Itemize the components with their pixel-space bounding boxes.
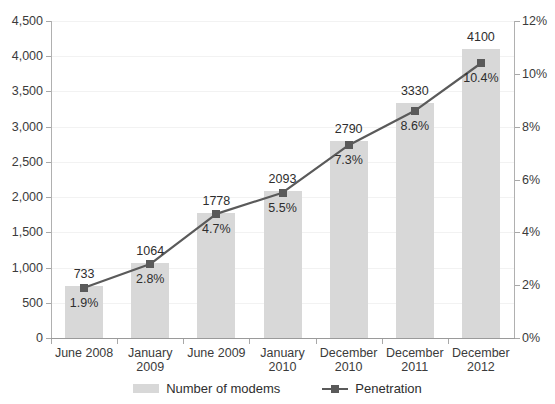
y-axis-left-tick-label: 2,500 [12,156,43,169]
bar [462,49,500,338]
chart-legend: Number of modems Penetration [0,381,555,396]
penetration-value-label: 2.8% [110,273,190,286]
y-axis-right-tick [515,180,520,181]
y-axis-right-tick-label: 4% [522,226,540,239]
x-axis-line [51,338,515,339]
x-axis-category-label: January2009 [117,346,183,374]
bar [330,141,368,338]
y-axis-left-tick [46,162,51,163]
x-axis-tick [117,339,118,344]
x-axis-tick [51,339,52,344]
y-axis-right-tick [515,127,520,128]
y-axis-left-tick [46,127,51,128]
y-axis-left-tick-label: 3,000 [12,121,43,134]
y-axis-left-tick [46,197,51,198]
line-marker [345,141,353,149]
gridline [51,21,514,22]
x-axis-tick [448,339,449,344]
bar-value-label: 3330 [375,85,455,98]
y-axis-right-tick-label: 6% [522,174,540,187]
y-axis-left-tick-label: 4,000 [12,50,43,63]
bar-value-label: 4100 [441,31,521,44]
gridline [51,162,514,163]
y-axis-right-tick [515,285,520,286]
legend-label-penetration: Penetration [355,381,422,396]
gridline [51,56,514,57]
legend-item-number-of-modems: Number of modems [133,381,280,396]
bar [396,103,434,338]
y-axis-right-tick [515,21,520,22]
legend-label-number-of-modems: Number of modems [166,381,280,396]
line-marker [477,59,485,67]
x-axis-tick [183,339,184,344]
x-axis-tick [382,339,383,344]
x-axis-tick [316,339,317,344]
y-axis-left-tick-label: 2,000 [12,191,43,204]
y-axis-left-tick [46,91,51,92]
y-axis-left-tick-label: 1,500 [12,226,43,239]
bar-value-label: 1064 [110,245,190,258]
x-axis-category-label: June 2008 [51,346,117,360]
y-axis-right-tick-label: 2% [522,279,540,292]
y-axis-right-tick-label: 10% [522,68,547,81]
line-marker [80,284,88,292]
penetration-value-label: 10.4% [441,72,521,85]
x-axis-category-label: June 2009 [183,346,249,360]
chart-container: 05001,0001,5002,0002,5003,0003,5004,0004… [0,0,555,404]
bar-value-label: 2093 [243,173,323,186]
x-axis-category-label: December2010 [316,346,382,374]
legend-item-penetration: Penetration [322,381,422,396]
y-axis-right-tick-label: 12% [522,15,547,28]
line-square-marker-icon [322,384,348,393]
y-axis-left-tick [46,232,51,233]
y-axis-right-tick [515,338,520,339]
x-axis-category-label: December2011 [382,346,448,374]
y-axis-right-tick-label: 8% [522,121,540,134]
y-axis-left-tick [46,56,51,57]
bar [65,286,103,338]
y-axis-right-tick-label: 0% [522,332,540,345]
penetration-value-label: 7.3% [309,154,389,167]
penetration-value-label: 5.5% [243,202,323,215]
x-axis-category-label: January2010 [249,346,315,374]
y-axis-left-tick-label: 3,500 [12,85,43,98]
y-axis-right-tick [515,232,520,233]
y-axis-left-tick-label: 500 [22,297,43,310]
line-marker [279,189,287,197]
bar-swatch-icon [133,384,159,393]
y-axis-left-tick-label: 4,500 [12,15,43,28]
x-axis-tick [249,339,250,344]
line-marker [411,107,419,115]
y-axis-left-tick-label: 0 [36,332,43,345]
line-marker [212,210,220,218]
penetration-value-label: 1.9% [44,297,124,310]
line-marker [146,260,154,268]
y-axis-left-tick [46,21,51,22]
x-axis-category-label: December2012 [448,346,514,374]
penetration-value-label: 4.7% [176,223,256,236]
y-axis-left-tick-label: 1,000 [12,262,43,275]
penetration-value-label: 8.6% [375,120,455,133]
y-axis-left-line [51,21,52,339]
